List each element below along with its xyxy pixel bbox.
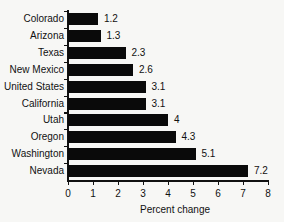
x-tick-label: 4 bbox=[161, 188, 175, 199]
category-label: Oregon bbox=[31, 131, 64, 143]
x-tick bbox=[218, 181, 219, 185]
x-tick bbox=[118, 181, 119, 185]
value-label: 4.3 bbox=[182, 131, 196, 143]
value-label: 5.1 bbox=[202, 148, 216, 160]
value-label: 1.3 bbox=[107, 30, 121, 42]
value-label: 7.2 bbox=[254, 165, 268, 177]
y-tick bbox=[64, 112, 68, 113]
x-tick bbox=[143, 181, 144, 185]
bar bbox=[68, 81, 146, 93]
bar bbox=[68, 47, 126, 59]
x-tick bbox=[68, 181, 69, 185]
x-tick bbox=[168, 181, 169, 185]
x-tick-label: 6 bbox=[211, 188, 225, 199]
bar bbox=[68, 148, 196, 160]
y-tick bbox=[64, 28, 68, 29]
category-label: United States bbox=[4, 81, 64, 93]
x-tick-label: 5 bbox=[186, 188, 200, 199]
x-tick bbox=[93, 181, 94, 185]
value-label: 4 bbox=[174, 114, 180, 126]
bar-chart: Colorado1.2Arizona1.3Texas2.3New Mexico2… bbox=[0, 0, 284, 222]
category-label: New Mexico bbox=[10, 64, 64, 76]
x-tick bbox=[268, 181, 269, 185]
category-label: California bbox=[22, 98, 64, 110]
x-tick-label: 3 bbox=[136, 188, 150, 199]
x-tick bbox=[193, 181, 194, 185]
x-tick-label: 7 bbox=[236, 188, 250, 199]
y-tick bbox=[64, 146, 68, 147]
category-label: Texas bbox=[38, 47, 64, 59]
x-tick-label: 2 bbox=[111, 188, 125, 199]
bar bbox=[68, 30, 101, 42]
value-label: 3.1 bbox=[152, 98, 166, 110]
y-tick bbox=[64, 96, 68, 97]
value-label: 2.6 bbox=[139, 64, 153, 76]
y-tick bbox=[64, 163, 68, 164]
bar bbox=[68, 13, 98, 25]
category-label: Colorado bbox=[23, 13, 64, 25]
value-label: 1.2 bbox=[104, 13, 118, 25]
y-tick bbox=[64, 45, 68, 46]
category-label: Utah bbox=[43, 114, 64, 126]
y-tick bbox=[64, 11, 68, 12]
y-tick bbox=[64, 62, 68, 63]
x-tick-label: 8 bbox=[261, 188, 275, 199]
y-tick bbox=[64, 79, 68, 80]
x-tick-label: 1 bbox=[86, 188, 100, 199]
value-label: 2.3 bbox=[132, 47, 146, 59]
bar bbox=[68, 131, 176, 143]
category-label: Washington bbox=[12, 148, 64, 160]
value-label: 3.1 bbox=[152, 81, 166, 93]
bar bbox=[68, 114, 168, 126]
bar bbox=[68, 165, 248, 177]
bar bbox=[68, 64, 133, 76]
category-label: Arizona bbox=[30, 30, 64, 42]
x-tick bbox=[243, 181, 244, 185]
y-tick bbox=[64, 129, 68, 130]
x-tick-label: 0 bbox=[61, 188, 75, 199]
bar bbox=[68, 98, 146, 110]
x-axis-label: Percent change bbox=[0, 204, 284, 215]
category-label: Nevada bbox=[30, 165, 64, 177]
